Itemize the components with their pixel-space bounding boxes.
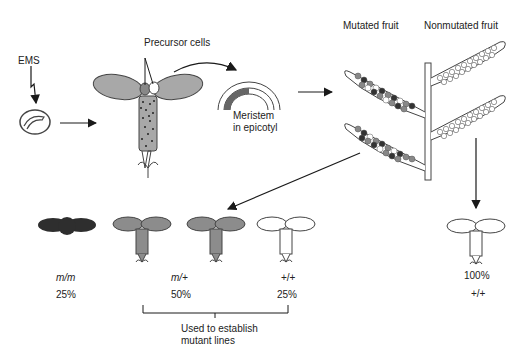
- percent-wildtype: 25%: [277, 289, 297, 301]
- meristem-label-line2: in epicotyl: [233, 122, 277, 134]
- mutated-fruit-label: Mutated fruit: [343, 20, 399, 32]
- genotype-nonmutated: +/+: [471, 288, 485, 300]
- genotype-wildtype: +/+: [281, 272, 295, 284]
- percent-mm: 25%: [56, 289, 76, 301]
- arrow-to-meristem: [174, 63, 236, 72]
- arrow-to-mutated-offspring: [228, 153, 360, 209]
- seedling-mm-icon: [38, 217, 96, 235]
- bracket-label-line1: Used to establish: [181, 323, 258, 335]
- seedling-m1-icon: [91, 58, 204, 178]
- mutated-fruit-pod: [345, 124, 425, 171]
- precursor-cells-label: Precursor cells: [144, 37, 210, 49]
- seedling-m-plus-icon: [187, 217, 245, 262]
- nonmutated-fruit-label: Nonmutated fruit: [424, 20, 498, 32]
- genotype-m-plus: m/+: [171, 272, 188, 284]
- seedling-wildtype-icon: [447, 219, 505, 264]
- percent-m-plus: 50%: [171, 289, 191, 301]
- ems-label: EMS: [18, 55, 40, 67]
- diagram-canvas: [0, 0, 525, 358]
- percent-nonmutated: 100%: [464, 270, 490, 282]
- bracket: [143, 305, 288, 318]
- seed-icon: [20, 110, 50, 134]
- meristem-label-line1: Meristem: [233, 110, 274, 122]
- seedling-wildtype-icon: [257, 217, 315, 262]
- nonmutated-fruit-pod: [431, 96, 505, 140]
- plant-stem: [425, 63, 431, 180]
- seedling-m-plus-icon: [113, 217, 171, 262]
- meristem-icon: [218, 82, 280, 110]
- mutated-fruit-pod: [345, 71, 425, 118]
- nonmutated-fruit-pod: [431, 42, 505, 86]
- genotype-mm: m/m: [56, 272, 75, 284]
- bracket-label-line2: mutant lines: [181, 335, 235, 347]
- ems-mutagen-arrow: [31, 66, 36, 103]
